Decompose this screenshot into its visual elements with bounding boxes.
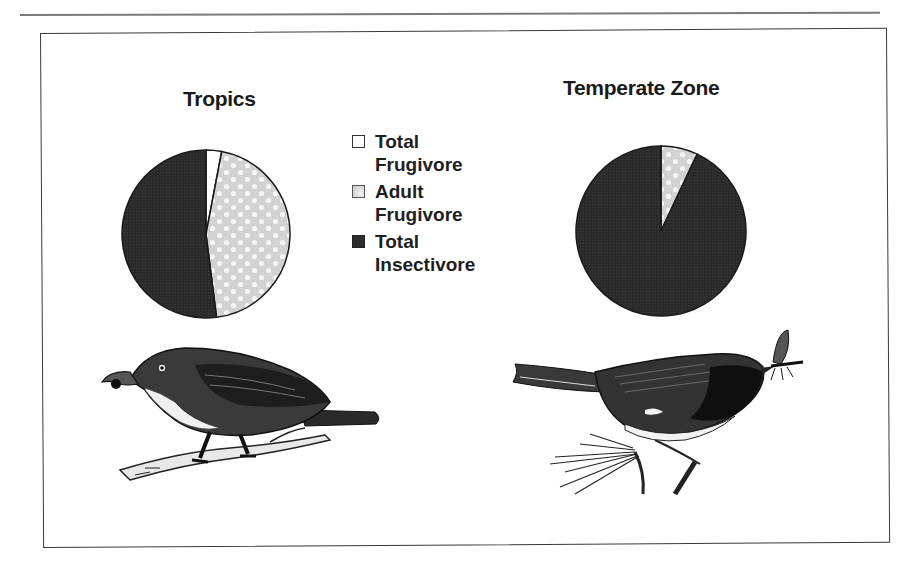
pie-slice-adult-frugivore xyxy=(206,151,290,317)
legend-item-adult-frugivore: Adult Frugivore xyxy=(350,180,520,226)
legend-label-line1: Adult xyxy=(375,180,520,203)
legend-label-line2: Frugivore xyxy=(375,203,520,226)
tropics-pie-chart xyxy=(118,148,294,320)
temperate-pie-chart xyxy=(574,144,748,318)
legend-item-total-insectivore: Total Insectivore xyxy=(350,230,520,276)
tropics-chart-title: Tropics xyxy=(183,87,256,111)
legend-label-line1: Total xyxy=(375,130,520,153)
legend-swatch-dotted xyxy=(352,185,365,198)
pie-slice-total-insectivore xyxy=(576,146,746,316)
chart-legend: Total Frugivore Adult Frugivore Total In… xyxy=(350,130,520,280)
insectivore-bird-illustration xyxy=(505,322,815,497)
legend-swatch-white xyxy=(352,135,365,148)
legend-label-line1: Total xyxy=(375,230,520,253)
frugivore-bird-illustration xyxy=(90,340,390,490)
legend-label-line2: Frugivore xyxy=(375,153,520,176)
pie-slice-total-insectivore xyxy=(122,150,217,318)
top-rule xyxy=(20,12,880,16)
legend-swatch-dark xyxy=(352,235,365,248)
legend-label-line2: Insectivore xyxy=(375,253,520,276)
legend-item-total-frugivore: Total Frugivore xyxy=(350,130,520,176)
moth-icon xyxy=(771,330,803,380)
temperate-chart-title: Temperate Zone xyxy=(563,76,719,100)
